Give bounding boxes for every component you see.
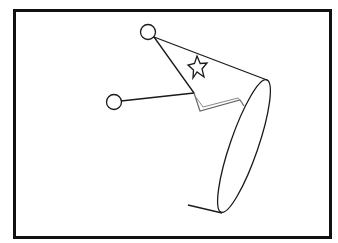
party-hat-drawing: [0, 0, 338, 243]
drawing-canvas: [0, 0, 338, 243]
pompom-circle: [141, 25, 156, 40]
string-end-circle: [107, 95, 122, 110]
